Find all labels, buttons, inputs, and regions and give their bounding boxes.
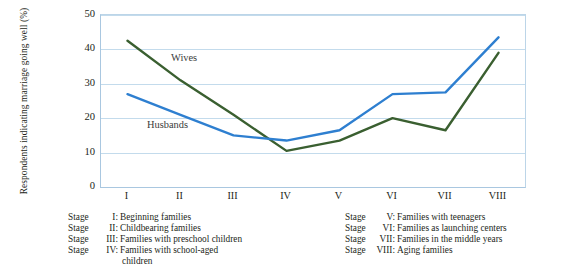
legend-stage-description: Childbearing families xyxy=(120,223,298,234)
x-tick-label: II xyxy=(176,190,183,202)
legend-stage-numeral: I: xyxy=(94,212,120,223)
legend-stage-description: Families with school-aged xyxy=(120,245,298,256)
legend-stage-numeral: V: xyxy=(371,212,397,223)
legend-stage-description-continued: children xyxy=(68,256,298,267)
legend-stage-numeral: VII: xyxy=(371,234,397,245)
legend-stage-numeral: VIII: xyxy=(371,245,397,256)
legend-row: StageVII:Families in the middle years xyxy=(345,234,560,245)
x-axis-ticks: IIIIIIIVVVIVIIVIII xyxy=(100,190,524,206)
legend-stage-description: Beginning families xyxy=(120,212,298,223)
legend-stage-numeral: II: xyxy=(94,223,120,234)
legend-stage-description: Families in the middle years xyxy=(397,234,560,245)
x-tick-label: V xyxy=(335,190,342,202)
legend-stage-word: Stage xyxy=(68,234,94,245)
stage-legend: StageI:Beginning familiesStageII:Childbe… xyxy=(0,212,562,270)
legend-stage-word: Stage xyxy=(345,245,371,256)
legend-row: StageVIII:Aging families xyxy=(345,245,560,256)
y-tick-label: 10 xyxy=(46,147,100,158)
legend-stage-word: Stage xyxy=(68,223,94,234)
legend-stage-word: Stage xyxy=(345,223,371,234)
legend-stage-numeral: IV: xyxy=(94,245,120,256)
legend-stage-description: Aging families xyxy=(397,245,560,256)
x-tick-label: VI xyxy=(386,190,397,202)
legend-stage-description: Families with teenagers xyxy=(397,212,560,223)
legend-stage-numeral: III: xyxy=(94,234,120,245)
legend-row: StageIV:Families with school-aged xyxy=(68,245,298,256)
x-tick-label: III xyxy=(227,190,237,202)
y-axis-label: Respondents indicating marriage going we… xyxy=(12,14,38,188)
x-tick-label: IV xyxy=(280,190,291,202)
y-axis-label-text: Respondents indicating marriage going we… xyxy=(19,8,31,195)
legend-stage-word: Stage xyxy=(345,212,371,223)
plot-area xyxy=(100,14,526,188)
y-axis-ticks: 01020304050 xyxy=(40,14,100,186)
legend-row: StageII:Childbearing families xyxy=(68,223,298,234)
legend-stage-word: Stage xyxy=(68,212,94,223)
series-lines xyxy=(101,15,525,187)
x-tick-label: VII xyxy=(437,190,451,202)
legend-row: StageV:Families with teenagers xyxy=(345,212,560,223)
series-label-husbands: Husbands xyxy=(147,119,188,130)
series-label-wives: Wives xyxy=(171,52,197,63)
legend-stage-description: Families with preschool children xyxy=(120,234,298,245)
legend-stage-numeral: VI: xyxy=(371,223,397,234)
stage-legend-left-column: StageI:Beginning familiesStageII:Childbe… xyxy=(68,212,298,267)
x-tick-label: I xyxy=(125,190,128,202)
chart-figure: Respondents indicating marriage going we… xyxy=(0,0,562,274)
legend-row: StageVI:Families as launching centers xyxy=(345,223,560,234)
y-tick-label: 40 xyxy=(46,43,100,54)
legend-stage-word: Stage xyxy=(68,245,94,256)
legend-row: StageI:Beginning families xyxy=(68,212,298,223)
legend-row: StageIII:Families with preschool childre… xyxy=(68,234,298,245)
stage-legend-right-column: StageV:Families with teenagersStageVI:Fa… xyxy=(345,212,560,256)
x-tick-label: VIII xyxy=(489,190,507,202)
y-tick-label: 30 xyxy=(46,78,100,89)
legend-stage-word: Stage xyxy=(345,234,371,245)
y-tick-label: 0 xyxy=(46,181,100,192)
legend-stage-description: Families as launching centers xyxy=(397,223,560,234)
y-tick-label: 20 xyxy=(46,112,100,123)
y-tick-label: 50 xyxy=(46,9,100,20)
